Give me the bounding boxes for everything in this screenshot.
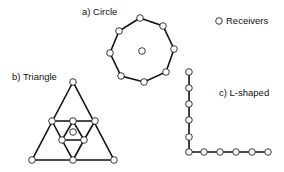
receiver-node <box>160 23 167 30</box>
receiver-node <box>141 79 148 86</box>
receiver-node <box>59 137 66 144</box>
label-circle: a) Circle <box>82 6 117 17</box>
receiver-node <box>70 79 77 86</box>
legend: Receivers <box>216 15 269 26</box>
label-triangle: b) Triangle <box>12 71 57 82</box>
receiver-node <box>116 28 123 35</box>
receiver-node <box>233 149 240 156</box>
receiver-node <box>265 149 272 156</box>
receiver-node <box>163 69 170 76</box>
receiver-node <box>107 50 114 57</box>
receiver-node <box>70 118 77 125</box>
receiver-node <box>49 118 56 125</box>
receiver-node <box>70 157 77 164</box>
receiver-node-center <box>70 129 77 136</box>
receiver-node <box>186 101 193 108</box>
receiver-node <box>81 137 88 144</box>
receiver-node <box>137 15 144 22</box>
receiver-node <box>92 118 99 125</box>
receiver-node <box>186 134 193 141</box>
receiver-node <box>186 117 193 124</box>
lshaped-array <box>186 69 272 156</box>
receiver-node <box>186 69 193 76</box>
lshaped-edges <box>189 72 268 152</box>
receiver-legend-icon <box>216 18 223 25</box>
receiver-node <box>171 46 178 53</box>
receiver-node <box>217 149 224 156</box>
circle-array <box>107 15 178 86</box>
triangle-array <box>29 79 118 164</box>
receiver-node <box>111 157 118 164</box>
label-lshaped: c) L-shaped <box>219 87 269 98</box>
receiver-node-center <box>139 48 146 55</box>
receiver-node <box>249 149 256 156</box>
receiver-node-corner <box>186 149 193 156</box>
legend-label: Receivers <box>226 15 268 26</box>
array-diagram: a) Circle b) Triangle c) L-shaped Receiv… <box>0 0 284 172</box>
receiver-node <box>186 85 193 92</box>
receiver-node <box>201 149 208 156</box>
receiver-node <box>29 157 36 164</box>
receiver-node <box>118 73 125 80</box>
